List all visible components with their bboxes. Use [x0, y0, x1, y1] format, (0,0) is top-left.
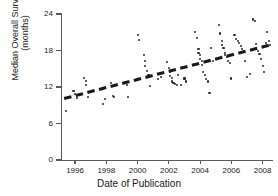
scatter-point	[226, 56, 228, 58]
scatter-point	[263, 71, 265, 73]
scatter-point	[210, 47, 212, 49]
scatter-point	[83, 77, 85, 79]
scatter-point	[87, 96, 89, 98]
scatter-point	[176, 84, 178, 86]
y-tick-mark	[56, 13, 61, 14]
scatter-point	[124, 81, 126, 83]
y-tick-mark	[56, 86, 61, 87]
scatter-point	[126, 84, 128, 86]
scatter-point	[202, 71, 204, 73]
scatter-point	[138, 39, 140, 41]
scatter-point	[254, 20, 256, 22]
scatter-point	[185, 80, 187, 82]
scatter-point	[246, 76, 248, 78]
scatter-point	[230, 77, 232, 79]
x-tick-label: 2006	[222, 166, 240, 175]
scatter-point	[240, 45, 242, 47]
x-tick-label: 1996	[66, 166, 84, 175]
y-tick-label: 0	[0, 155, 53, 164]
scatter-point	[266, 31, 268, 33]
scatter-point	[144, 65, 146, 67]
scatter-point	[201, 60, 203, 62]
x-tick-mark	[106, 160, 107, 164]
scatter-point	[144, 60, 146, 62]
scatter-point	[171, 77, 173, 79]
x-tick-label: 2002	[160, 166, 178, 175]
scatter-point	[258, 53, 260, 55]
y-tick-label: 12	[0, 82, 53, 91]
y-tick-mark	[56, 50, 61, 51]
scatter-point	[110, 82, 112, 84]
scatter-point	[204, 74, 206, 76]
scatter-point	[268, 40, 270, 42]
scatter-point	[76, 97, 78, 99]
y-tick-mark	[56, 159, 61, 160]
scatter-point	[168, 67, 170, 69]
scatter-point	[196, 37, 198, 39]
scatter-point	[229, 62, 231, 64]
scatter-point	[222, 47, 224, 49]
scatter-point	[146, 70, 148, 72]
chart-screenshot: Median Overall Survival (months) 0612182…	[0, 0, 278, 196]
scatter-point	[244, 60, 246, 62]
scatter-point	[183, 77, 185, 79]
x-tick-mark	[200, 160, 201, 164]
scatter-point	[243, 50, 245, 52]
y-tick-label: 24	[0, 9, 53, 18]
scatter-point	[149, 85, 151, 87]
x-axis-label: Date of Publication	[0, 178, 278, 189]
x-tick-mark	[74, 160, 75, 164]
scatter-point	[221, 40, 223, 42]
scatter-point	[166, 61, 168, 63]
y-tick-label: 18	[0, 46, 53, 55]
scatter-point	[219, 32, 221, 34]
scatter-point	[137, 34, 139, 36]
scatter-point	[255, 43, 257, 45]
scatter-point	[212, 60, 214, 62]
scatter-point	[147, 74, 149, 76]
scatter-point	[74, 93, 76, 95]
scatter-point	[221, 44, 223, 46]
x-tick-mark	[231, 160, 232, 164]
x-tick-label: 1998	[97, 166, 115, 175]
scatter-point	[260, 58, 262, 60]
x-axis-line	[61, 160, 273, 161]
scatter-point	[157, 78, 159, 80]
y-axis-line	[61, 13, 62, 161]
scatter-point	[257, 50, 259, 52]
scatter-point	[199, 54, 201, 56]
scatter-point	[201, 64, 203, 66]
scatter-point	[233, 34, 235, 36]
scatter-point	[65, 110, 67, 112]
x-tick-label: 2004	[191, 166, 209, 175]
scatter-point	[177, 74, 179, 76]
scatter-point	[104, 98, 106, 100]
scatter-point	[143, 54, 145, 56]
scatter-point	[160, 76, 162, 78]
scatter-point	[269, 44, 271, 46]
x-tick-mark	[137, 160, 138, 164]
scatter-point	[102, 103, 104, 105]
scatter-point	[249, 73, 251, 75]
scatter-point	[194, 31, 196, 33]
scatter-point	[265, 42, 267, 44]
scatter-point	[255, 47, 257, 49]
x-tick-label: 2000	[129, 166, 147, 175]
scatter-point	[262, 65, 264, 67]
x-tick-label: 2008	[254, 166, 272, 175]
scatter-point	[207, 80, 209, 82]
y-tick-label: 6	[0, 119, 53, 128]
scatter-point	[113, 96, 115, 98]
scatter-point	[169, 71, 171, 73]
scatter-point	[127, 96, 129, 98]
x-tick-mark	[168, 160, 169, 164]
scatter-point	[218, 24, 220, 26]
scatter-point	[197, 48, 199, 50]
x-tick-mark	[262, 160, 263, 164]
y-tick-mark	[56, 123, 61, 124]
scatter-point	[208, 92, 210, 94]
scatter-point	[238, 42, 240, 44]
scatter-point	[85, 80, 87, 82]
scatter-point	[180, 84, 182, 86]
scatter-point	[85, 84, 87, 86]
